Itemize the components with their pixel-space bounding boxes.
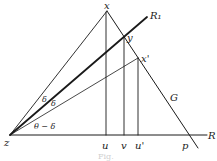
label-G: G (170, 92, 178, 103)
angle-delta-upper: δ (42, 95, 47, 104)
angle-delta-lower: δ (51, 99, 56, 108)
label-u-prime: u' (135, 140, 144, 151)
angle-theta-minus-delta: θ − δ (34, 122, 56, 131)
label-x: x (104, 0, 110, 11)
figure-caption: Fig. (98, 152, 114, 161)
line-zx (10, 11, 107, 135)
line-zx-prime (10, 58, 138, 135)
label-R1: R₁ (149, 10, 162, 21)
label-z: z (3, 137, 10, 148)
label-x-prime: x' (141, 53, 149, 64)
label-p: p (182, 140, 189, 151)
geometry-diagram: x R₁ y x' G R z u v u' p δ δ θ − δ Fig. (0, 0, 217, 161)
line-G (107, 11, 198, 148)
label-R: R (207, 130, 216, 141)
label-v: v (121, 140, 127, 151)
label-u: u (102, 140, 108, 151)
label-y: y (126, 32, 133, 43)
